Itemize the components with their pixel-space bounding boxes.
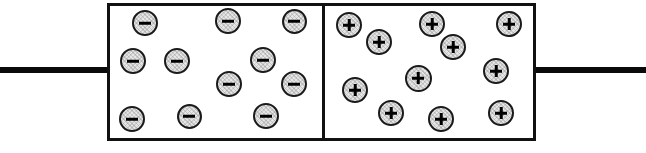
- positive-charge-icon: [378, 100, 404, 126]
- charge-sign-vertical-stroke: [500, 107, 503, 119]
- right-terminal-wire: [534, 67, 646, 73]
- positive-charge-icon: [488, 100, 514, 126]
- positive-charge-icon: [336, 12, 362, 38]
- charge-sign-horizontal-stroke: [260, 115, 272, 118]
- negative-charge-icon: [132, 10, 158, 36]
- charge-sign-horizontal-stroke: [288, 20, 300, 23]
- positive-charge-icon: [440, 34, 466, 60]
- charge-sign-vertical-stroke: [390, 107, 393, 119]
- positive-charge-icon: [366, 29, 392, 55]
- positive-charge-icon: [496, 11, 522, 37]
- charge-sign-horizontal-stroke: [257, 59, 269, 62]
- charge-sign-horizontal-stroke: [127, 60, 139, 63]
- positive-charge-icon: [419, 11, 445, 37]
- charge-sign-vertical-stroke: [431, 18, 434, 30]
- charge-sign-vertical-stroke: [440, 113, 443, 125]
- negative-charge-icon: [215, 8, 241, 34]
- negative-charge-icon: [177, 104, 202, 129]
- charge-sign-horizontal-stroke: [171, 60, 183, 63]
- charge-sign-vertical-stroke: [452, 41, 455, 53]
- negative-charge-icon: [120, 48, 146, 74]
- capacitor-diagram: [0, 0, 646, 153]
- charge-sign-vertical-stroke: [378, 36, 381, 48]
- positive-charge-icon: [428, 106, 454, 132]
- charge-sign-horizontal-stroke: [222, 20, 234, 23]
- plate-separator: [322, 3, 325, 141]
- negative-charge-icon: [253, 103, 279, 129]
- charge-sign-horizontal-stroke: [183, 115, 195, 118]
- negative-charge-icon: [119, 106, 145, 132]
- positive-charge-icon: [483, 58, 509, 84]
- charge-sign-vertical-stroke: [495, 65, 498, 77]
- charge-sign-horizontal-stroke: [223, 83, 235, 86]
- negative-charge-icon: [282, 9, 307, 34]
- positive-charge-icon: [342, 77, 368, 103]
- charge-sign-vertical-stroke: [508, 18, 511, 30]
- positive-charge-icon: [405, 65, 432, 92]
- negative-charge-icon: [216, 71, 242, 97]
- charge-sign-horizontal-stroke: [126, 118, 138, 121]
- left-terminal-wire: [0, 67, 110, 73]
- negative-charge-icon: [164, 48, 190, 74]
- charge-sign-vertical-stroke: [348, 19, 351, 31]
- negative-charge-icon: [250, 47, 276, 73]
- charge-sign-horizontal-stroke: [288, 83, 300, 86]
- charge-sign-horizontal-stroke: [139, 22, 151, 25]
- negative-charge-icon: [281, 71, 307, 97]
- charge-sign-vertical-stroke: [417, 72, 420, 85]
- charge-sign-vertical-stroke: [354, 84, 357, 96]
